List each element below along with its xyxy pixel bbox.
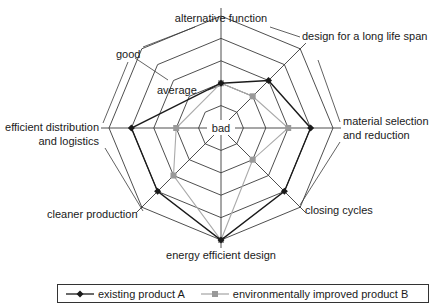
data-point-marker bbox=[250, 157, 256, 163]
axis-label-energy-efficient-design: energy efficient design bbox=[166, 249, 276, 261]
axis-label-logistics: and logistics bbox=[38, 135, 99, 147]
data-point-marker bbox=[250, 93, 256, 99]
data-point-marker bbox=[128, 125, 135, 132]
axis-label-closing-cycles: closing cycles bbox=[305, 204, 373, 216]
data-point-marker bbox=[170, 173, 176, 179]
axis-label-material-reduction: and reduction bbox=[343, 129, 410, 141]
square-marker-icon bbox=[201, 289, 229, 299]
scale-label-bad: bad bbox=[212, 122, 230, 134]
legend-item-product-b: environmentally improved product B bbox=[201, 288, 408, 300]
axis-label-material-selection: material selection bbox=[343, 115, 429, 127]
radar-chart: alternative function design for a long l… bbox=[0, 0, 435, 308]
axis-label-design-long-life: design for a long life span bbox=[302, 30, 427, 42]
diamond-marker-icon bbox=[66, 289, 94, 299]
data-point-marker bbox=[285, 125, 291, 131]
scale-label-average: average bbox=[157, 84, 197, 96]
scale-label-good: good bbox=[116, 48, 140, 60]
axis-label-alternative-function: alternative function bbox=[175, 12, 267, 24]
axis-label-cleaner-production: cleaner production bbox=[47, 208, 138, 220]
legend-item-product-a: existing product A bbox=[66, 288, 185, 300]
data-point-marker bbox=[173, 125, 179, 131]
legend-label-product-a: existing product A bbox=[98, 288, 185, 300]
axis-label-efficient-distribution: efficient distribution bbox=[5, 121, 99, 133]
legend-label-product-b: environmentally improved product B bbox=[233, 288, 408, 300]
chart-legend: existing product A environmentally impro… bbox=[57, 284, 429, 303]
